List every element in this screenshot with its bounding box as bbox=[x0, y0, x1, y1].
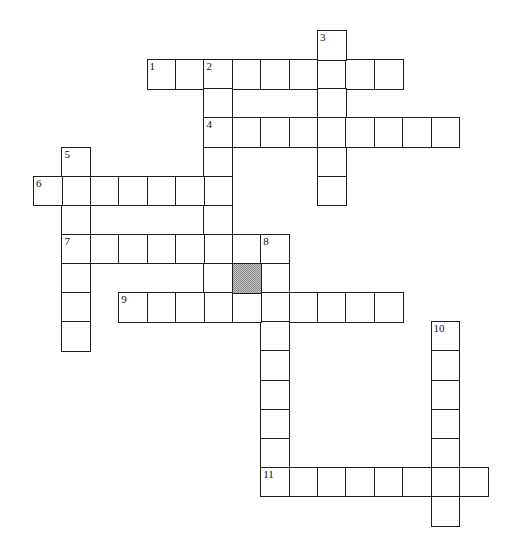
crossword-cell[interactable]: 8 bbox=[260, 234, 290, 265]
clue-number: 10 bbox=[434, 322, 445, 334]
crossword-cell[interactable] bbox=[317, 147, 347, 178]
crossword-cell[interactable] bbox=[175, 59, 205, 90]
crossword-cell[interactable] bbox=[431, 409, 461, 440]
crossword-cell[interactable] bbox=[260, 263, 290, 294]
crossword-cell[interactable] bbox=[345, 467, 375, 498]
crossword-cell[interactable] bbox=[175, 176, 205, 207]
crossword-cell[interactable] bbox=[203, 205, 233, 236]
crossword-cell[interactable] bbox=[431, 496, 461, 527]
crossword-cell[interactable]: 2 bbox=[203, 59, 233, 90]
crossword-cell[interactable]: 1 bbox=[147, 59, 177, 90]
crossword-cell[interactable] bbox=[61, 321, 91, 352]
crossword-cell[interactable] bbox=[402, 117, 432, 148]
crossword-cell[interactable] bbox=[260, 59, 290, 90]
clue-number: 3 bbox=[320, 31, 326, 43]
crossword-cell[interactable] bbox=[175, 234, 205, 265]
crossword-cell[interactable] bbox=[431, 438, 461, 469]
crossword-cell[interactable] bbox=[431, 350, 461, 381]
crossword-cell[interactable] bbox=[90, 234, 120, 265]
crossword-cell[interactable] bbox=[232, 292, 262, 323]
crossword-cell[interactable] bbox=[260, 117, 290, 148]
blocked-cell bbox=[232, 263, 262, 294]
crossword-cell[interactable] bbox=[203, 176, 233, 207]
crossword-cell[interactable] bbox=[431, 380, 461, 411]
crossword-cell[interactable] bbox=[289, 59, 319, 90]
crossword-cell[interactable] bbox=[317, 467, 347, 498]
crossword-cell[interactable] bbox=[289, 117, 319, 148]
crossword-cell[interactable] bbox=[147, 292, 177, 323]
crossword-cell[interactable] bbox=[260, 380, 290, 411]
clue-number: 8 bbox=[263, 235, 269, 247]
crossword-cell[interactable] bbox=[459, 467, 489, 498]
crossword-cell[interactable] bbox=[374, 59, 404, 90]
crossword-cell[interactable] bbox=[260, 292, 290, 323]
crossword-cell[interactable] bbox=[345, 292, 375, 323]
crossword-cell[interactable] bbox=[203, 263, 233, 294]
crossword-cell[interactable] bbox=[147, 234, 177, 265]
crossword-cell[interactable] bbox=[203, 88, 233, 119]
clue-number: 1 bbox=[150, 60, 156, 72]
crossword-cell[interactable] bbox=[289, 292, 319, 323]
crossword-cell[interactable]: 7 bbox=[61, 234, 91, 265]
clue-number: 7 bbox=[64, 235, 70, 247]
crossword-cell[interactable] bbox=[374, 292, 404, 323]
crossword-cell[interactable] bbox=[90, 176, 120, 207]
crossword-cell[interactable] bbox=[61, 205, 91, 236]
crossword-cell[interactable] bbox=[203, 147, 233, 178]
crossword-grid: 1243576811910 bbox=[0, 0, 514, 552]
clue-number: 11 bbox=[263, 468, 274, 480]
crossword-cell[interactable] bbox=[232, 59, 262, 90]
clue-number: 5 bbox=[64, 148, 70, 160]
crossword-cell[interactable]: 9 bbox=[118, 292, 148, 323]
crossword-cell[interactable] bbox=[317, 59, 347, 90]
crossword-cell[interactable]: 11 bbox=[260, 467, 290, 498]
clue-number: 6 bbox=[36, 177, 42, 189]
crossword-cell[interactable] bbox=[317, 117, 347, 148]
crossword-cell[interactable] bbox=[232, 117, 262, 148]
crossword-cell[interactable] bbox=[431, 467, 461, 498]
crossword-cell[interactable] bbox=[345, 117, 375, 148]
clue-number: 4 bbox=[206, 118, 212, 130]
clue-number: 2 bbox=[206, 60, 212, 72]
crossword-cell[interactable] bbox=[345, 59, 375, 90]
crossword-cell[interactable] bbox=[232, 234, 262, 265]
crossword-cell[interactable] bbox=[317, 292, 347, 323]
crossword-cell[interactable] bbox=[317, 88, 347, 119]
crossword-cell[interactable] bbox=[118, 176, 148, 207]
crossword-cell[interactable]: 6 bbox=[33, 176, 63, 207]
clue-number: 9 bbox=[121, 293, 127, 305]
crossword-cell[interactable]: 3 bbox=[317, 30, 347, 61]
crossword-cell[interactable] bbox=[402, 467, 432, 498]
crossword-cell[interactable] bbox=[260, 409, 290, 440]
crossword-cell[interactable] bbox=[61, 176, 91, 207]
crossword-cell[interactable] bbox=[147, 176, 177, 207]
crossword-cell[interactable] bbox=[118, 234, 148, 265]
crossword-cell[interactable]: 4 bbox=[203, 117, 233, 148]
crossword-cell[interactable] bbox=[374, 467, 404, 498]
crossword-cell[interactable] bbox=[260, 321, 290, 352]
crossword-cell[interactable] bbox=[61, 263, 91, 294]
crossword-cell[interactable] bbox=[260, 350, 290, 381]
crossword-cell[interactable] bbox=[374, 117, 404, 148]
crossword-cell[interactable] bbox=[203, 292, 233, 323]
crossword-cell[interactable]: 10 bbox=[431, 321, 461, 352]
crossword-cell[interactable] bbox=[175, 292, 205, 323]
crossword-cell[interactable] bbox=[61, 292, 91, 323]
crossword-cell[interactable] bbox=[289, 467, 319, 498]
crossword-cell[interactable] bbox=[203, 234, 233, 265]
crossword-cell[interactable] bbox=[431, 117, 461, 148]
crossword-cell[interactable]: 5 bbox=[61, 147, 91, 178]
crossword-cell[interactable] bbox=[260, 438, 290, 469]
crossword-cell[interactable] bbox=[317, 176, 347, 207]
